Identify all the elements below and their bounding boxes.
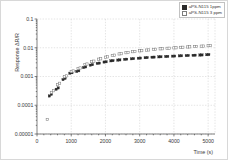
data-point: [119, 59, 121, 61]
data-point: [167, 55, 169, 57]
data-point: [65, 75, 67, 77]
data-point: [113, 54, 115, 56]
data-point: [134, 50, 136, 52]
y-axis-title: Response ΔR/R: [14, 33, 20, 72]
x-tick-label: 5000: [202, 138, 214, 144]
data-point: [180, 55, 182, 57]
data-point: [120, 53, 122, 55]
data-point: [160, 56, 162, 58]
data-point: [52, 90, 54, 92]
data-point: [132, 57, 134, 59]
data-point: [91, 64, 93, 66]
data-point: [105, 61, 107, 63]
data-point: [57, 87, 59, 89]
data-point: [182, 46, 184, 48]
data-point: [168, 47, 170, 49]
data-point: [173, 55, 175, 57]
y-tick-label: 0.01: [23, 45, 33, 51]
y-tick-label: 0.1: [26, 16, 33, 22]
data-point: [86, 63, 88, 65]
y-tick-label: 0.0001: [18, 102, 34, 108]
data-point: [154, 48, 156, 50]
series-1-points: [48, 53, 210, 97]
x-tick-label: 2000: [100, 138, 112, 144]
data-point: [100, 58, 102, 60]
data-point: [209, 44, 211, 46]
data-point: [147, 49, 149, 51]
data-point: [146, 56, 148, 58]
data-point: [106, 56, 108, 58]
x-tick-label: 4000: [168, 138, 180, 144]
chart-figure: 0.10.010.0010.00010.00001010002000300040…: [0, 0, 228, 160]
filled-square-icon: [182, 5, 187, 10]
data-point: [195, 45, 197, 47]
data-point: [98, 62, 100, 64]
chart-legend: aPS-N115 1ppm aPS-N115 3 ppm: [179, 2, 225, 18]
data-point: [161, 48, 163, 50]
open-square-icon: [182, 11, 187, 16]
scatter-plot: 0.10.010.0010.00010.00001010002000300040…: [1, 1, 228, 160]
y-tick-label: 0.00001: [15, 131, 34, 137]
data-point: [201, 54, 203, 56]
x-tick-label: 1000: [65, 138, 77, 144]
legend-label-series-2: aPS-N115 3 ppm: [189, 10, 222, 16]
data-point: [84, 66, 86, 68]
legend-item-series-2[interactable]: aPS-N115 3 ppm: [182, 10, 222, 16]
data-point: [46, 118, 48, 120]
x-tick-label: 0: [36, 138, 39, 144]
data-point: [189, 46, 191, 48]
x-axis-title: Time (s): [193, 149, 213, 155]
y-tick-label: 0.001: [20, 73, 33, 79]
data-point: [208, 53, 210, 55]
data-point: [93, 60, 95, 62]
data-point: [187, 54, 189, 56]
data-point: [194, 54, 196, 56]
data-point: [202, 45, 204, 47]
data-point: [72, 70, 74, 72]
data-point: [112, 60, 114, 62]
data-point: [58, 82, 60, 84]
data-point: [139, 57, 141, 59]
data-point: [126, 58, 128, 60]
data-point: [175, 47, 177, 49]
data-point: [79, 67, 81, 69]
data-point: [153, 56, 155, 58]
x-tick-label: 3000: [134, 138, 146, 144]
data-point: [127, 51, 129, 53]
data-point: [141, 50, 143, 52]
data-point: [78, 70, 80, 72]
